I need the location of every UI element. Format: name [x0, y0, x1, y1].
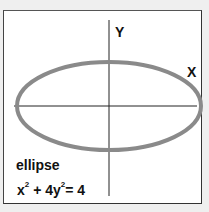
eq-x-exp: 2: [25, 180, 29, 189]
curve-name: ellipse: [16, 157, 60, 173]
eq-rhs: = 4: [65, 182, 85, 198]
eq-x: x: [17, 182, 25, 198]
y-axis-label: Y: [115, 24, 124, 40]
eq-y-exp: 2: [61, 180, 65, 189]
x-axis-label: X: [187, 64, 196, 80]
eq-plus: + 4: [29, 182, 53, 198]
eq-y: y: [53, 182, 61, 198]
ellipse-plot: [0, 0, 209, 212]
equation: x2 + 4y2= 4: [17, 182, 85, 198]
